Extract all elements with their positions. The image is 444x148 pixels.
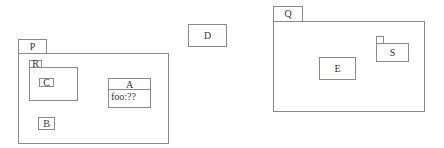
- class-a[interactable]: A foo:??: [108, 78, 151, 108]
- package-s-body[interactable]: S: [376, 43, 409, 62]
- package-p-label: P: [19, 42, 46, 52]
- box-d[interactable]: D: [188, 24, 227, 47]
- package-p-tab[interactable]: P: [18, 39, 47, 54]
- box-b-label: B: [39, 119, 54, 129]
- box-c-label: C: [40, 78, 53, 88]
- package-q-tab[interactable]: Q: [273, 6, 303, 22]
- class-a-attribute: foo:??: [111, 92, 136, 102]
- box-e[interactable]: E: [319, 57, 356, 80]
- box-e-label: E: [320, 64, 355, 74]
- box-d-label: D: [189, 31, 226, 41]
- box-b[interactable]: B: [38, 117, 55, 130]
- box-c[interactable]: C: [39, 78, 54, 87]
- class-a-divider: [109, 89, 150, 90]
- package-q-label: Q: [274, 9, 302, 19]
- package-s-label: S: [377, 48, 408, 58]
